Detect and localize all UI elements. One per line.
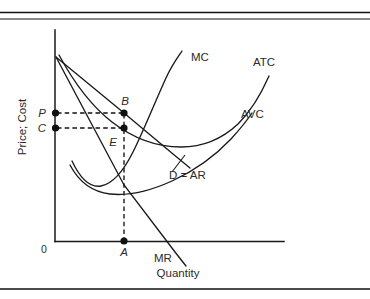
- label-mr-curve: MR: [154, 252, 172, 264]
- atc-curve: [59, 55, 269, 147]
- marker-dot-price: [52, 109, 59, 116]
- curves: [56, 51, 269, 266]
- label-cost-c: C: [38, 122, 47, 134]
- construction-guides: [57, 113, 124, 240]
- marker-dot-cost: [52, 124, 59, 131]
- label-avc-curve: AVC: [241, 108, 264, 120]
- economics-figure: Price; Cost Quantity 0 P C B E A MC ATC …: [0, 0, 370, 299]
- marker-dot-e: [120, 124, 127, 131]
- label-price-p: P: [38, 107, 46, 119]
- label-demand-ar-curve: D = AR: [169, 169, 206, 181]
- x-axis-label: Quantity: [157, 267, 200, 279]
- y-axis-label: Price; Cost: [16, 98, 28, 155]
- label-point-a: A: [119, 246, 128, 258]
- marker-dot-a: [120, 237, 127, 244]
- mr-curve: [56, 57, 186, 266]
- avc-curve: [70, 113, 252, 194]
- label-atc-curve: ATC: [253, 56, 275, 68]
- marker-dot-b: [120, 109, 127, 116]
- label-mc-curve: MC: [191, 51, 209, 63]
- label-point-e: E: [109, 136, 117, 148]
- label-point-b: B: [121, 95, 129, 107]
- cost-revenue-diagram: Price; Cost Quantity 0 P C B E A MC ATC …: [0, 0, 370, 299]
- origin-label: 0: [41, 243, 47, 255]
- axes: [55, 30, 284, 242]
